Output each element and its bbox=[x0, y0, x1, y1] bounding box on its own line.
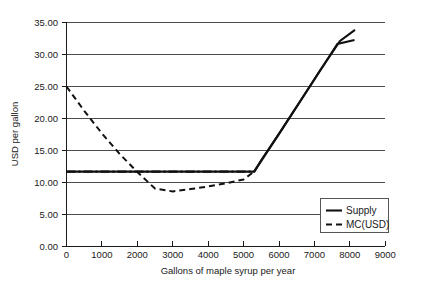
y-tick-marks bbox=[62, 23, 66, 247]
x-tick-label-2000: 2000 bbox=[127, 249, 148, 260]
x-tick-marks bbox=[67, 241, 386, 246]
y-axis-title: USD per gallon bbox=[9, 102, 20, 166]
y-tick-label-15: 15.00 bbox=[34, 145, 58, 156]
y-tick-label-20: 20.00 bbox=[34, 113, 58, 124]
y-tick-label-0: 0.00 bbox=[40, 241, 59, 252]
y-tick-label-30: 30.00 bbox=[34, 49, 58, 60]
x-tick-label-1000: 1000 bbox=[91, 249, 112, 260]
x-tick-label-8000: 8000 bbox=[339, 249, 360, 260]
supply-mc-line-chart: 35.00 30.00 25.00 20.00 15.00 10.00 5.00… bbox=[0, 0, 434, 287]
series-line-supply bbox=[67, 40, 355, 172]
x-tick-label-5000: 5000 bbox=[233, 249, 254, 260]
x-tick-label-4000: 4000 bbox=[198, 249, 219, 260]
x-axis-title: Gallons of maple syrup per year bbox=[161, 265, 296, 276]
legend-label-mc: MC(USD) bbox=[346, 219, 389, 230]
legend-label-supply: Supply bbox=[346, 205, 377, 216]
x-tick-label-9000: 9000 bbox=[375, 249, 396, 260]
y-tick-label-25: 25.00 bbox=[34, 81, 58, 92]
x-tick-label-0: 0 bbox=[64, 249, 69, 260]
series-line-mc bbox=[67, 87, 255, 192]
x-tick-label-7000: 7000 bbox=[304, 249, 325, 260]
y-tick-label-5: 5.00 bbox=[40, 209, 59, 220]
chart-legend[interactable]: Supply MC(USD) bbox=[321, 199, 390, 233]
x-tick-label-3000: 3000 bbox=[162, 249, 183, 260]
y-tick-label-10: 10.00 bbox=[34, 177, 58, 188]
y-tick-label-35: 35.00 bbox=[34, 17, 58, 28]
chart-page: 35.00 30.00 25.00 20.00 15.00 10.00 5.00… bbox=[0, 0, 434, 287]
gridlines bbox=[66, 23, 385, 215]
x-tick-label-6000: 6000 bbox=[268, 249, 289, 260]
